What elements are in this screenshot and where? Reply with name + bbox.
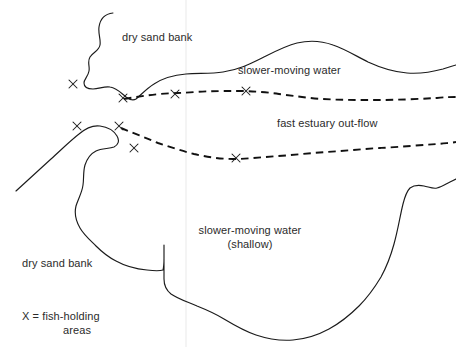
legend-line-1: X = fish-holding bbox=[22, 310, 132, 324]
fish-holding-marker-x-8 bbox=[232, 154, 240, 162]
legend-line-2: areas bbox=[22, 324, 132, 338]
dry-sand-bank-upper-outline bbox=[84, 13, 456, 100]
label-slower-moving-water-top: slower-moving water bbox=[238, 64, 341, 78]
label-slower-moving-water-shallow: slower-moving water (shallow) bbox=[190, 224, 310, 251]
fish-holding-marker-x-3 bbox=[171, 90, 179, 98]
label-slower-moving-water-shallow-line2: (shallow) bbox=[190, 238, 310, 252]
fish-holding-markers bbox=[69, 80, 250, 162]
label-dry-sand-bank-bottom: dry sand bank bbox=[22, 257, 92, 271]
fast-estuary-outflow-channel-lower bbox=[121, 128, 456, 159]
fish-holding-marker-x-5 bbox=[73, 122, 81, 130]
estuary-diagram: dry sand bank slower-moving water fast e… bbox=[0, 0, 456, 347]
label-slower-moving-water-shallow-line1: slower-moving water bbox=[190, 224, 310, 238]
diagram-canvas bbox=[0, 0, 456, 347]
fish-holding-marker-x-6 bbox=[115, 122, 123, 130]
fish-holding-marker-x-1 bbox=[69, 80, 77, 88]
fish-holding-marker-x-7 bbox=[130, 144, 138, 152]
legend: X = fish-holding areas bbox=[22, 310, 132, 337]
label-dry-sand-bank-top: dry sand bank bbox=[122, 31, 192, 45]
label-fast-estuary-outflow: fast estuary out-flow bbox=[277, 117, 378, 131]
